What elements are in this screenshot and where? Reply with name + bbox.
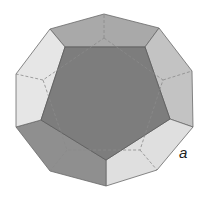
figure-label: a xyxy=(179,144,187,161)
top-face xyxy=(50,14,159,47)
dodecahedron-diagram xyxy=(0,0,206,197)
